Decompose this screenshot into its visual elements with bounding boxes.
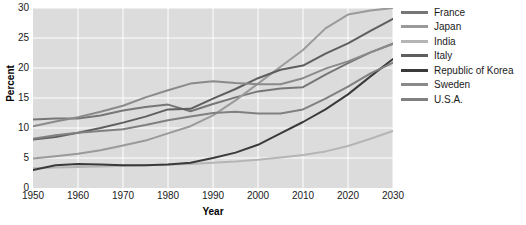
y-axis-tick: 10: [0, 123, 29, 133]
legend-item[interactable]: France: [401, 5, 525, 20]
series-line: [33, 8, 393, 159]
legend-item[interactable]: India: [401, 34, 525, 49]
x-axis-tick: 1970: [112, 190, 134, 202]
legend-swatch-icon: [401, 25, 428, 28]
x-axis-tick: 2000: [247, 190, 269, 202]
x-axis-title: Year: [33, 206, 393, 217]
legend-label: Sweden: [434, 79, 470, 90]
chart-legend: FranceJapanIndiaItalyRepublic of KoreaSw…: [401, 5, 525, 107]
legend-label: Republic of Korea: [434, 65, 514, 76]
y-axis-title: Percent: [5, 54, 16, 114]
y-axis-tick: 30: [0, 3, 29, 13]
legend-item[interactable]: Republic of Korea: [401, 63, 525, 78]
legend-swatch-icon: [401, 83, 428, 86]
series-line: [33, 131, 393, 168]
legend-label: Japan: [434, 21, 461, 32]
x-axis-tick: 1990: [202, 190, 224, 202]
legend-label: U.S.A.: [434, 94, 463, 105]
legend-label: Italy: [434, 50, 452, 61]
line-chart: 051015202530 Percent 1950196019701980199…: [0, 0, 526, 225]
x-axis-tick: 2010: [292, 190, 314, 202]
legend-label: France: [434, 7, 465, 18]
legend-swatch-icon: [401, 11, 428, 14]
x-axis-tick: 1960: [67, 190, 89, 202]
legend-item[interactable]: Sweden: [401, 78, 525, 93]
legend-item[interactable]: U.S.A.: [401, 92, 525, 107]
x-axis-tick: 2020: [337, 190, 359, 202]
x-axis-tick: 1980: [157, 190, 179, 202]
legend-swatch-icon: [401, 98, 428, 101]
series-lines: [33, 8, 393, 188]
series-line: [33, 19, 393, 140]
legend-item[interactable]: Japan: [401, 20, 525, 35]
legend-swatch-icon: [401, 40, 428, 43]
legend-swatch-icon: [401, 54, 428, 57]
legend-swatch-icon: [401, 69, 428, 72]
x-axis-tick-labels: 195019601970198019902000201020202030: [33, 190, 393, 206]
legend-label: India: [434, 36, 456, 47]
y-axis-tick: 5: [0, 153, 29, 163]
y-axis-tick: 25: [0, 33, 29, 43]
legend-item[interactable]: Italy: [401, 49, 525, 64]
plot-area: [33, 8, 393, 188]
x-axis-tick: 2030: [382, 190, 404, 202]
x-axis-tick: 1950: [22, 190, 44, 202]
